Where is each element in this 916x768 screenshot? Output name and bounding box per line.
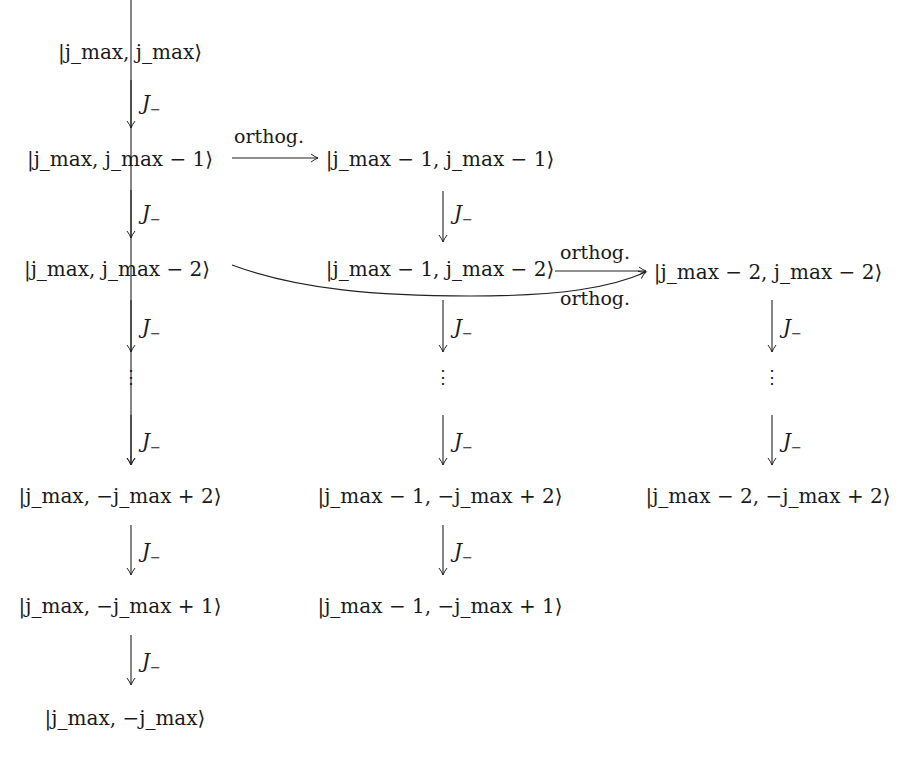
ket-jmax-neg-jmax: |j_max, −j_max⟩: [45, 706, 206, 730]
ket-jmax-minus-1-jmax-minus-1: |j_max − 1, j_max − 1⟩: [326, 147, 554, 171]
vertical-ellipsis: ⋮: [122, 372, 140, 382]
j-minus-label: J−: [454, 430, 473, 459]
orthog-label-3: orthog.: [560, 288, 630, 308]
j-minus-label: J−: [142, 316, 161, 345]
orthog-label-1: orthog.: [234, 126, 304, 146]
j-minus-label: J−: [142, 540, 161, 569]
ket-jmax-minus-1-jmax-minus-2: |j_max − 1, j_max − 2⟩: [326, 257, 554, 281]
ket-jmax-minus-1-neg-jmax-plus-2: |j_max − 1, −j_max + 2⟩: [317, 484, 562, 508]
ket-jmax-jmax: |j_max, j_max⟩: [58, 40, 202, 64]
ket-jmax-jmax-minus-2: |j_max, j_max − 2⟩: [24, 257, 210, 281]
j-minus-label: J−: [454, 540, 473, 569]
j-minus-label: J−: [142, 650, 161, 679]
j-minus-label: J−: [142, 202, 161, 231]
j-minus-label: J−: [142, 92, 161, 121]
ket-jmax-minus-1-neg-jmax-plus-1: |j_max − 1, −j_max + 1⟩: [317, 594, 562, 618]
orthog-label-2: orthog.: [560, 242, 630, 262]
j-minus-label: J−: [454, 202, 473, 231]
j-minus-label: J−: [783, 430, 802, 459]
ket-jmax-minus-2-jmax-minus-2: |j_max − 2, j_max − 2⟩: [654, 260, 882, 284]
ket-jmax-jmax-minus-1: |j_max, j_max − 1⟩: [27, 147, 213, 171]
j-minus-label: J−: [783, 316, 802, 345]
vertical-ellipsis: ⋮: [434, 372, 452, 382]
ket-jmax-neg-jmax-plus-1: |j_max, −j_max + 1⟩: [19, 594, 222, 618]
vertical-ellipsis: ⋮: [763, 372, 781, 382]
ket-jmax-minus-2-neg-jmax-plus-2: |j_max − 2, −j_max + 2⟩: [645, 484, 890, 508]
j-minus-label: J−: [454, 316, 473, 345]
ket-jmax-neg-jmax-plus-2: |j_max, −j_max + 2⟩: [19, 484, 222, 508]
j-minus-label: J−: [142, 430, 161, 459]
